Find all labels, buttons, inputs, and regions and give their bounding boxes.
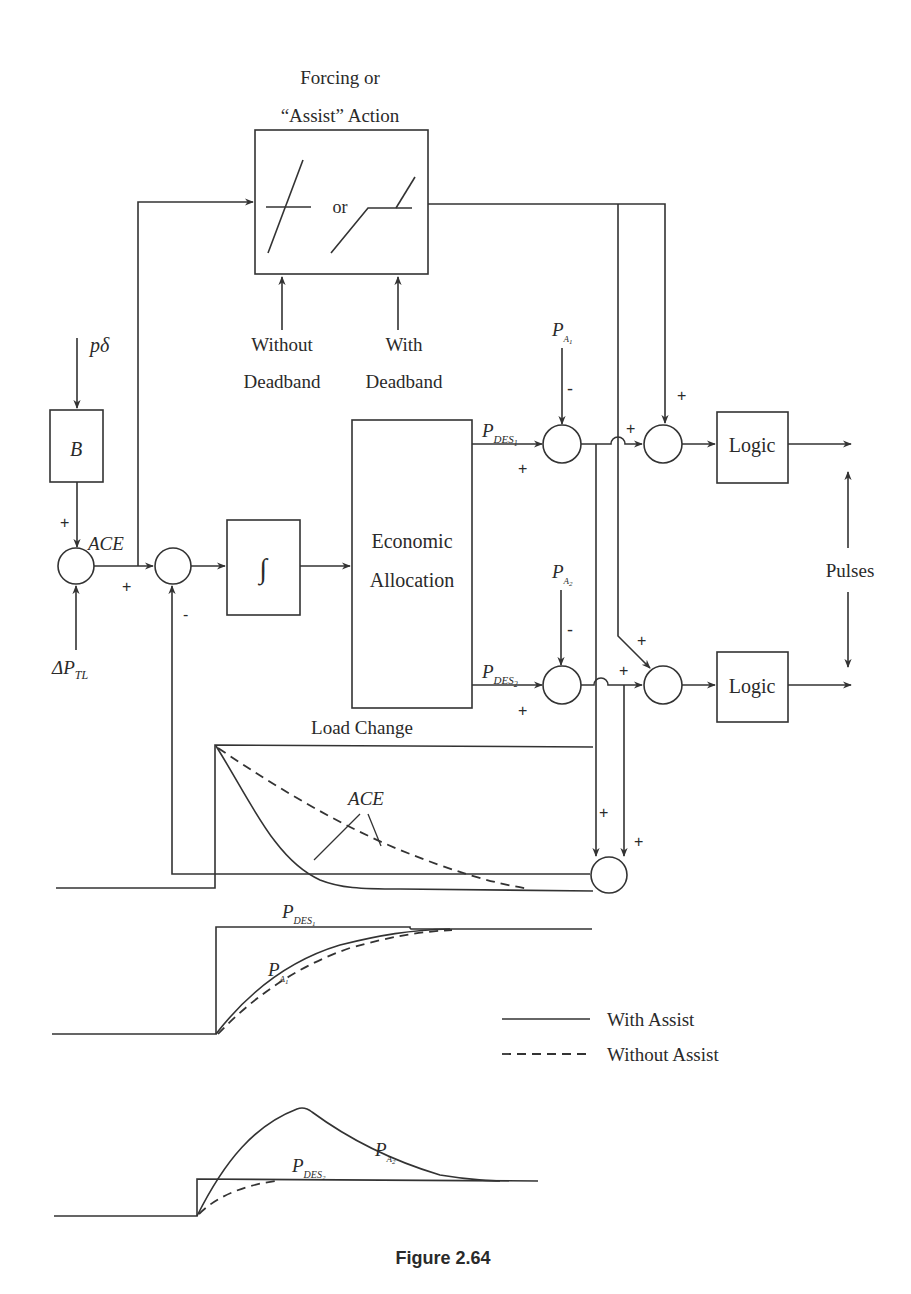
feedback-sum: + +	[591, 444, 643, 893]
pulses-label: Pulses	[826, 560, 875, 581]
sum4-plus-top: +	[677, 387, 686, 404]
sum5-to-sum6-arrow	[581, 678, 642, 685]
bias-label: B	[70, 438, 82, 460]
pulses-annotation: Pulses	[826, 472, 875, 667]
chart-load-change-ace: Load Change ACE	[56, 717, 593, 891]
forcing-to-sum4-arrow	[428, 204, 665, 423]
ace-with-assist-curve	[216, 746, 593, 891]
p-des1-step	[52, 927, 592, 1034]
summing-junction-feedback	[591, 857, 627, 893]
legend-with-assist: With Assist	[607, 1009, 695, 1030]
economic-label-1: Economic	[371, 530, 452, 552]
summing-junction-5	[543, 666, 581, 704]
p-a1-with-assist-curve	[216, 929, 450, 1034]
unit2-channel: PDES2 + PA2 - + + Logic	[472, 561, 851, 722]
forcing-title-line2: “Assist” Action	[281, 105, 400, 126]
sum2-plus: +	[122, 578, 131, 595]
load-change-step	[56, 745, 593, 888]
p-des2-chart-label: PDES2	[291, 1155, 326, 1182]
ace-label: ACE	[86, 533, 124, 554]
load-change-title: Load Change	[311, 717, 413, 738]
ace-to-forcing-arrow	[138, 202, 253, 566]
sum5-plus: +	[518, 702, 527, 719]
p-a2-with-assist-curve	[197, 1108, 500, 1216]
sum2-minus: -	[183, 606, 188, 623]
sum5-minus: -	[567, 620, 573, 640]
legend-without-assist: Without Assist	[607, 1044, 719, 1065]
sum3-minus: -	[567, 379, 573, 399]
p-a2-without-assist-curve	[199, 1181, 275, 1214]
without-deadband-label-1: Without	[251, 334, 313, 355]
or-label: or	[333, 197, 348, 217]
ace-annotation: ACE	[346, 788, 384, 809]
economic-label-2: Allocation	[370, 569, 454, 591]
forcing-title-line1: Forcing or	[300, 67, 380, 88]
fb-plus-right: +	[634, 833, 643, 850]
unit1-channel: PDES1 + PA1 - + + Logic	[472, 319, 851, 483]
with-deadband-label-1: With	[385, 334, 423, 355]
input-section: pδ B + ACE ΔPTL + - ∫	[50, 202, 590, 874]
p-a1-chart-label: PA1	[267, 959, 289, 986]
p-des1-chart-label: PDES1	[281, 901, 315, 928]
economic-allocation-block: Economic Allocation	[352, 420, 472, 708]
p-a2-chart-label: PA2	[374, 1139, 396, 1166]
summing-junction-6	[644, 666, 682, 704]
p-a2-label: PA2	[551, 561, 573, 588]
sum3-to-sum4-arrow	[581, 437, 642, 444]
figure-canvas: Forcing or “Assist” Action or Without De…	[0, 0, 911, 1294]
forcing-assist-block: Forcing or “Assist” Action or Without De…	[243, 67, 443, 392]
summing-junction-2	[155, 548, 191, 584]
sum3-plus: +	[518, 460, 527, 477]
sum4-plus-left: +	[626, 420, 635, 437]
p-a1-label: PA1	[551, 319, 573, 346]
p-a1-without-assist-curve	[218, 930, 452, 1034]
chart-pdes2-pa2: PA2 PDES2	[54, 1108, 538, 1216]
economic-allocation-box	[352, 420, 472, 708]
sum6-plus-top: +	[637, 632, 646, 649]
sum1-plus-top: +	[60, 514, 69, 531]
ace-without-assist-curve	[218, 748, 530, 889]
logic1-label: Logic	[729, 434, 776, 457]
without-deadband-label-2: Deadband	[243, 371, 321, 392]
summing-junction-4	[644, 425, 682, 463]
chart-legend: With Assist Without Assist	[502, 1009, 719, 1065]
summing-junction-3	[543, 425, 581, 463]
fb-plus-left: +	[599, 804, 608, 821]
with-deadband-label-2: Deadband	[365, 371, 443, 392]
sum6-plus-left: +	[619, 662, 628, 679]
p-des2-step	[54, 1179, 538, 1216]
ace-pointer-dashed	[368, 814, 381, 846]
delta-ptl-label: ΔPTL	[51, 657, 88, 682]
p-delta-label: pδ	[88, 334, 110, 357]
chart-pdes1-pa1: PDES1 PA1	[52, 901, 592, 1034]
figure-caption: Figure 2.64	[395, 1248, 490, 1268]
logic2-label: Logic	[729, 675, 776, 698]
